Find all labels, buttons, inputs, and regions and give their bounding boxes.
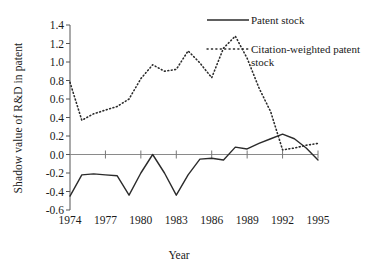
plot-area [0,0,382,275]
chart-figure: Shadow value of R&D in patent Year 1.41.… [0,0,382,275]
axis-lines [66,25,70,210]
legend-label-patent-stock: Patent stock [251,14,304,27]
legend-item-patent-stock: Patent stock [205,14,304,27]
legend-swatch-solid-icon [205,14,250,26]
zero-baseline [70,151,318,159]
legend-swatch-dotted-icon [205,43,250,55]
legend-item-citation-weighted: Citation-weighted patent stock [205,43,371,68]
legend-label-citation-weighted: Citation-weighted patent stock [251,43,371,68]
